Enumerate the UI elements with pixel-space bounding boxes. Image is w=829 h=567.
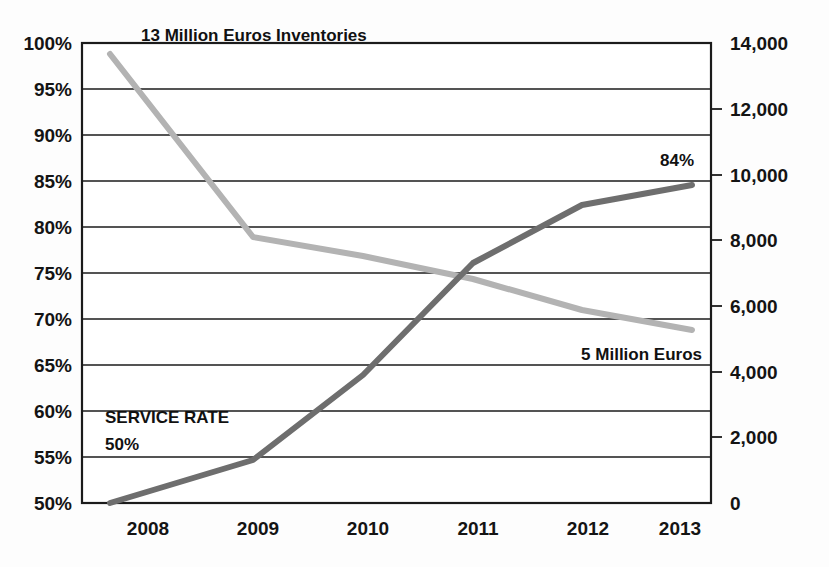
right-tick-label-0: 0 (730, 493, 741, 514)
x-tick-label-2013: 2013 (659, 518, 701, 539)
right-tick-label-14000: 14,000 (730, 33, 788, 54)
left-axis-labels: 100% 95% 90% 85% 80% 75% 70% 65% 60% 55%… (23, 33, 72, 514)
left-tick-label-70: 70% (34, 309, 72, 330)
left-tick-label-55: 55% (34, 447, 72, 468)
left-tick-label-95: 95% (34, 79, 72, 100)
right-tick-label-4000: 4,000 (730, 362, 778, 383)
x-axis-labels: 2008 2009 2010 2011 2012 2013 (127, 518, 701, 539)
left-tick-label-80: 80% (34, 217, 72, 238)
left-tick-label-100: 100% (23, 33, 72, 54)
left-tick-label-50: 50% (34, 493, 72, 514)
annotation-service-rate-title: SERVICE RATE (105, 408, 229, 427)
right-tick-label-6000: 6,000 (730, 296, 778, 317)
right-axis-labels: 14,000 12,000 10,000 8,000 6,000 4,000 2… (730, 33, 788, 514)
chart-container: 100% 95% 90% 85% 80% 75% 70% 65% 60% 55%… (0, 0, 829, 567)
annotation-inventories-end: 5 Million Euros (581, 345, 702, 364)
left-tick-label-90: 90% (34, 125, 72, 146)
left-tick-label-65: 65% (34, 355, 72, 376)
x-tick-label-2011: 2011 (457, 518, 499, 539)
annotation-inventories-start: 13 Million Euros Inventories (141, 26, 367, 45)
right-tick-label-12000: 12,000 (730, 99, 788, 120)
x-tick-label-2012: 2012 (567, 518, 609, 539)
line-chart: 100% 95% 90% 85% 80% 75% 70% 65% 60% 55%… (0, 0, 829, 567)
left-tick-label-60: 60% (34, 401, 72, 422)
x-tick-label-2008: 2008 (127, 518, 169, 539)
x-tick-label-2010: 2010 (347, 518, 389, 539)
annotation-service-rate-start-value: 50% (105, 435, 139, 454)
right-tick-label-8000: 8,000 (730, 230, 778, 251)
left-tick-label-85: 85% (34, 171, 72, 192)
right-tick-label-10000: 10,000 (730, 165, 788, 186)
right-axis-ticks (711, 109, 722, 437)
left-tick-label-75: 75% (34, 263, 72, 284)
x-tick-label-2009: 2009 (237, 518, 279, 539)
annotation-service-rate-end-value: 84% (660, 151, 694, 170)
right-tick-label-2000: 2,000 (730, 427, 778, 448)
